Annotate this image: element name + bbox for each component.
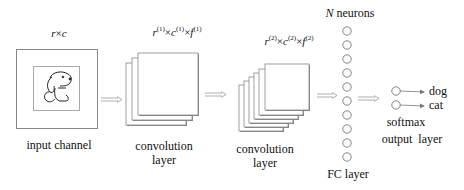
conv2-caption-line1: convolution [225,142,305,157]
output-layer-caption: output layer [372,132,452,147]
arrow-fc-to-output [358,96,379,102]
fc-neurons-label: N neurons [315,6,385,21]
conv1-caption-line2: layer [124,153,204,168]
output-neurons [392,87,400,109]
superscript: (1) [176,25,184,33]
fc-neurons [343,27,351,161]
var-c: c [62,27,67,39]
superscript: (1) [193,25,201,33]
output-arrows [400,91,424,106]
neurons-text: neurons [334,6,375,20]
softmax-label: softmax [376,115,436,130]
input-dims-label: r×c [41,27,77,39]
conv2-dims-label: r(2)×c(2)×f(2) [246,34,332,47]
conv1-dims-label: r(1)×c(1)×f(1) [134,25,220,38]
arrow-input-to-conv1 [101,97,122,103]
arrow-conv2-to-fc [317,93,337,99]
class-label-cat: cat [429,98,443,113]
conv1-caption-line1: convolution [124,139,204,154]
superscript: (2) [305,34,313,42]
conv2-caption-line2: layer [225,156,305,171]
input-channel-caption: input channel [4,138,114,153]
input-channel-frame [17,50,98,129]
superscript: (1) [157,25,165,33]
arrow-conv1-to-conv2 [205,92,226,98]
superscript: (2) [269,34,277,42]
conv1-feature-maps [126,53,199,126]
fc-layer-caption: FC layer [315,167,381,182]
superscript: (2) [288,34,296,42]
var-n: N [325,6,333,20]
conv2-feature-maps [239,64,310,132]
class-label-dog: dog [429,84,447,99]
